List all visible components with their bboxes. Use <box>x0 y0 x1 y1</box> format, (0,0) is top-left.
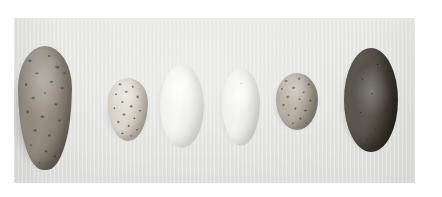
egg-specimen-4[interactable] <box>222 68 260 146</box>
egg-body-6 <box>344 48 398 152</box>
egg-speckle-pattern-4 <box>222 68 260 146</box>
egg-speckle-pattern-1 <box>18 46 72 170</box>
egg-specimen-1[interactable] <box>18 46 72 170</box>
egg-body-1 <box>18 46 72 170</box>
egg-speckle-pattern-5 <box>276 73 318 130</box>
egg-speckle-pattern-2 <box>108 78 148 141</box>
egg-body-2 <box>108 78 148 141</box>
egg-body-3 <box>160 64 204 148</box>
egg-specimen-5[interactable] <box>276 73 318 130</box>
egg-body-4 <box>222 68 260 146</box>
egg-specimen-3[interactable] <box>160 64 204 148</box>
egg-speckle-pattern-6 <box>344 48 398 152</box>
egg-specimen-2[interactable] <box>108 78 148 141</box>
egg-specimen-6[interactable] <box>344 48 398 152</box>
egg-plate-figure <box>0 0 442 197</box>
egg-body-5 <box>276 73 318 130</box>
photograph-background <box>14 18 415 183</box>
